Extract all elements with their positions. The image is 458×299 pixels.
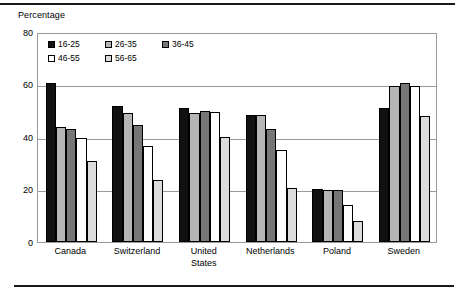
bar: [220, 137, 230, 242]
bar-group: [305, 34, 372, 242]
y-tick-label-40: 40: [0, 134, 33, 143]
bar-group: [371, 34, 438, 242]
bar: [333, 190, 343, 242]
legend-row-1: 16-2526-3536-45: [48, 37, 228, 51]
bar: [353, 221, 363, 242]
bar: [87, 161, 97, 242]
bar: [256, 115, 266, 242]
bar: [276, 150, 286, 242]
y-tick-label-0: 0: [0, 239, 33, 248]
legend-item-26-35[interactable]: 26-35: [105, 40, 162, 49]
legend-item-label: 56-65: [115, 54, 137, 63]
bar: [246, 115, 256, 242]
bar: [66, 129, 76, 242]
bar-group: [38, 34, 105, 242]
bar: [389, 86, 399, 242]
legend-item-label: 26-35: [115, 40, 137, 49]
bar-group: [171, 34, 238, 242]
bar-group: [238, 34, 305, 242]
x-tick-label: Poland: [304, 246, 371, 258]
legend-row-2: 46-5556-65: [48, 51, 228, 65]
bar-group: [105, 34, 172, 242]
bar: [153, 180, 163, 242]
bar: [312, 189, 322, 242]
legend-item-46-55[interactable]: 46-55: [48, 54, 105, 63]
x-tick-label: Sweden: [370, 246, 437, 258]
legend-item-label: 46-55: [58, 54, 80, 63]
y-tick-label-80: 80: [0, 29, 33, 38]
legend-swatch-icon: [162, 41, 169, 48]
x-tick-label: Switzerland: [104, 246, 171, 258]
legend-swatch-icon: [105, 55, 112, 62]
bar: [410, 86, 420, 242]
bar: [189, 113, 199, 242]
legend-item-16-25[interactable]: 16-25: [48, 40, 105, 49]
bar: [379, 108, 389, 242]
x-tick-label: Canada: [37, 246, 104, 258]
bar: [133, 125, 143, 242]
bar: [112, 106, 122, 243]
bars-layer: [38, 34, 436, 242]
legend-swatch-icon: [105, 41, 112, 48]
legend-item-56-65[interactable]: 56-65: [105, 54, 162, 63]
bar: [123, 113, 133, 242]
bar: [143, 146, 153, 242]
bar: [46, 83, 56, 242]
y-axis-tick-labels: 020406080: [0, 0, 33, 299]
y-tick-label-20: 20: [0, 186, 33, 195]
legend-item-label: 16-25: [58, 40, 80, 49]
bar: [76, 138, 86, 242]
top-divider-rule: [0, 3, 455, 5]
bar: [179, 108, 189, 242]
bar: [343, 205, 353, 242]
bar: [400, 83, 410, 242]
bar: [210, 112, 220, 242]
legend-item-label: 36-45: [172, 40, 194, 49]
x-axis-tick-labels: CanadaSwitzerlandUnited StatesNetherland…: [37, 246, 437, 286]
chart-legend: 16-2526-3536-45 46-5556-65: [48, 37, 228, 65]
y-tick-label-60: 60: [0, 81, 33, 90]
bar: [323, 190, 333, 243]
bar: [200, 111, 210, 242]
x-tick-label: Netherlands: [237, 246, 304, 258]
bar: [287, 188, 297, 242]
legend-swatch-icon: [48, 55, 55, 62]
legend-swatch-icon: [48, 41, 55, 48]
legend-item-36-45[interactable]: 36-45: [162, 40, 219, 49]
x-tick-label: United States: [170, 246, 237, 269]
bar: [420, 116, 430, 242]
bar: [266, 129, 276, 242]
bar: [56, 127, 66, 243]
